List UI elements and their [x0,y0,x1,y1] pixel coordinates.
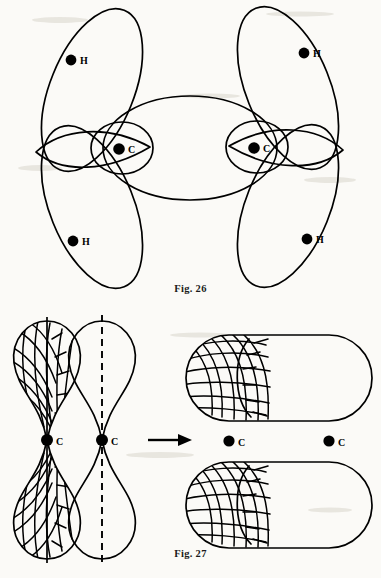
atom-h-lower-left: H [68,236,90,247]
atom-c-right-panel-right: C [323,435,345,448]
atom-label-c: C [263,143,270,154]
paper-texture [18,12,356,184]
atom-label-h: H [82,236,90,247]
hatch-upper-capsule [181,334,270,420]
atom-c-right-panel-left: C [223,435,245,448]
atom-c-left: C [113,143,135,155]
figure-27-right-panel: C C [181,334,372,548]
atom-dot [323,435,334,446]
atom-label-c: C [111,436,118,447]
atom-label-h: H [80,55,88,66]
atom-dot [96,434,108,446]
atom-dot [299,48,310,59]
atom-label-h: H [316,234,324,245]
figure-26-drawing: H H C C H [0,0,381,305]
atom-dot [248,142,260,154]
figure-27: C C [0,305,381,578]
atom-dot [41,434,53,446]
atom-dot [223,435,234,446]
atom-label-c: C [338,437,345,448]
pi-cloud-upper-inner-edge [237,339,251,417]
yields-arrow [148,434,192,446]
scanned-page: H H C C H [0,0,381,578]
figure-27-left-panel: C C [8,315,135,563]
figure-26: H H C C H [0,0,381,305]
hatch-lower-capsule [181,461,270,547]
figure-26-caption: Fig. 26 [0,283,381,294]
atom-h-upper-right: H [299,48,321,59]
atom-label-h: H [313,48,321,59]
atom-label-c: C [238,437,245,448]
atom-c-left-panel-left: C [41,434,63,447]
atom-dot [113,143,125,155]
atom-dot [66,55,77,66]
atom-dot [302,234,313,245]
pi-cloud-lower-inner-edge [237,466,251,544]
atom-c-right: C [248,142,270,154]
arrow-head [178,434,192,446]
atom-dot [68,236,79,247]
figure-27-caption: Fig. 27 [0,548,381,559]
atom-h-upper-left: H [66,55,88,66]
atom-label-c: C [56,436,63,447]
atom-c-left-panel-right: C [96,434,118,447]
atom-label-c: C [128,144,135,155]
atom-h-lower-right: H [302,234,324,245]
figure-27-drawing: C C [0,305,381,578]
